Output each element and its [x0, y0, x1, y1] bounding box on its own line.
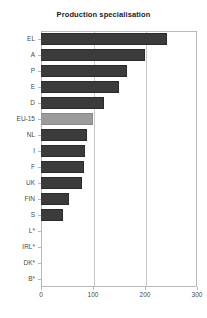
bars-layer	[41, 31, 197, 287]
y-tick-label-fin: FIN	[25, 191, 35, 207]
bar-a	[41, 49, 145, 61]
bar-e	[41, 81, 119, 93]
y-tick-label-irl: IRL*	[22, 239, 35, 255]
production-specialisation-chart: Production specialisation ELAPEDEU-15NLI…	[0, 0, 207, 318]
x-tick-label-200: 200	[140, 291, 151, 298]
bar-d	[41, 97, 104, 109]
y-tick-label-i: I	[33, 143, 35, 159]
chart-title: Production specialisation	[0, 10, 207, 19]
y-tick-label-b: B*	[28, 271, 35, 287]
y-tick-label-l: L*	[29, 223, 35, 239]
bar-s	[41, 209, 63, 221]
x-tick-mark-300	[197, 287, 198, 290]
y-tick-label-el: EL	[27, 31, 35, 47]
y-tick-label-eu15: EU-15	[17, 111, 35, 127]
y-tick-label-nl: NL	[27, 127, 35, 143]
bar-p	[41, 65, 127, 77]
x-tick-mark-0	[41, 287, 42, 290]
y-tick-label-d: D	[30, 95, 35, 111]
y-tick-label-p: P	[31, 63, 35, 79]
y-tick-label-a: A	[31, 47, 35, 63]
bar-el	[41, 33, 167, 45]
x-tick-label-0: 0	[39, 291, 43, 298]
bar-uk	[41, 177, 82, 189]
x-tick-label-300: 300	[192, 291, 203, 298]
bar-nl	[41, 129, 87, 141]
x-axis-labels: 0100200300	[0, 291, 207, 303]
y-tick-label-e: E	[31, 79, 35, 95]
bar-i	[41, 145, 85, 157]
x-tick-mark-200	[145, 287, 146, 290]
y-tick-label-dk: DK*	[23, 255, 35, 271]
bar-fin	[41, 193, 69, 205]
y-axis-labels: ELAPEDEU-15NLIFUKFINSL*IRL*DK*B*	[0, 31, 38, 287]
y-tick-label-f: F	[31, 159, 35, 175]
x-tick-mark-100	[93, 287, 94, 290]
bar-eu15	[41, 113, 93, 125]
y-tick-label-s: S	[31, 207, 35, 223]
y-tick-label-uk: UK	[26, 175, 35, 191]
bar-f	[41, 161, 84, 173]
x-tick-label-100: 100	[88, 291, 99, 298]
